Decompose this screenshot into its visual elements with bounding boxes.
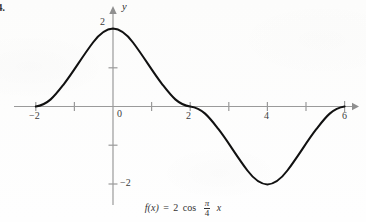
- caption-fraction: π 4: [204, 199, 211, 219]
- graph-plot: [0, 0, 366, 222]
- y-axis-group: [109, 6, 118, 205]
- x-axis-arrowhead: [352, 103, 359, 110]
- caption-coefficient: 2: [173, 202, 178, 213]
- caption-variable: x: [217, 202, 221, 213]
- y-tick-label-minus2: −2: [120, 177, 131, 188]
- y-axis-label: y: [122, 1, 127, 12]
- caption-fraction-numerator: π: [204, 199, 211, 208]
- x-tick-label-6: 6: [342, 110, 347, 121]
- caption-fraction-denominator: 4: [204, 208, 211, 218]
- x-tick-label-minus2: −2: [29, 110, 40, 121]
- caption-argument: (x): [148, 202, 159, 213]
- figure-caption: f(x) = 2 cos π 4 x: [0, 199, 366, 219]
- y-axis-arrowhead: [109, 6, 116, 14]
- y-tick-label-2: 2: [100, 16, 105, 27]
- x-tick-label-4: 4: [264, 110, 269, 121]
- x-tick-label-2: 2: [186, 110, 191, 121]
- caption-equals: =: [163, 202, 169, 213]
- caption-trig-function: cos: [183, 202, 196, 213]
- figure-page: 4.: [0, 0, 366, 222]
- x-tick-label-0: 0: [117, 108, 122, 119]
